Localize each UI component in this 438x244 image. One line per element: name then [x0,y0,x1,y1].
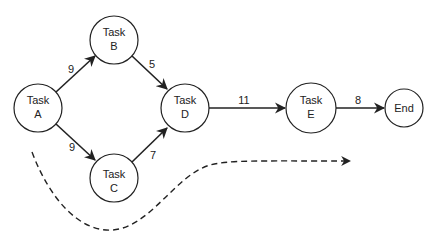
node-task-a-line1: Task [27,94,50,106]
dashed-flow-arrow [32,152,350,230]
edge-e-end-weight: 8 [355,94,361,106]
node-task-c: Task C [90,154,138,202]
node-task-a-line2: A [34,108,42,120]
node-task-e-line1: Task [300,94,323,106]
node-end-label: End [394,102,414,114]
node-task-b-line1: Task [103,26,126,38]
node-task-c-line1: Task [103,168,126,180]
node-task-d: Task D [161,84,209,132]
edge-a-c-weight: 9 [69,141,75,153]
node-task-d-line1: Task [174,94,197,106]
node-task-e: Task E [286,83,336,133]
edge-c-d-weight: 7 [150,149,156,161]
node-task-e-line2: E [307,108,314,120]
network-diagram: 9 9 5 7 11 8 Task A Task B Task C Task D [0,0,438,244]
edge-a-b-weight: 9 [68,63,74,75]
node-task-b-line2: B [110,40,117,52]
edge-b-d-weight: 5 [149,58,155,70]
node-task-a: Task A [14,84,62,132]
node-task-d-line2: D [181,108,189,120]
edge-a-c [56,124,95,160]
edge-d-e-weight: 11 [238,94,249,106]
node-end: End [385,89,423,127]
node-task-b: Task B [90,16,138,64]
node-task-c-line2: C [110,182,118,194]
edge-a-b [56,56,95,92]
